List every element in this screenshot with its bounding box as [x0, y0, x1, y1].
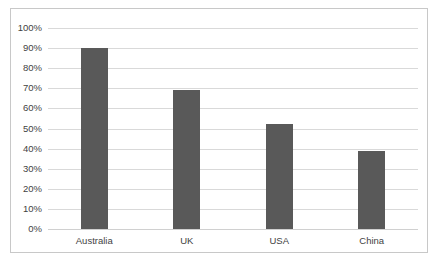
y-axis-tick-label: 20% — [23, 184, 42, 194]
x-axis-category-label: Australia — [76, 236, 113, 246]
y-axis-tick-label: 90% — [23, 43, 42, 53]
y-axis-tick-label: 30% — [23, 164, 42, 174]
y-axis-tick-label: 80% — [23, 63, 42, 73]
y-axis-tick-label: 10% — [23, 204, 42, 214]
gridline — [48, 28, 418, 29]
y-axis-tick-label: 100% — [18, 23, 42, 33]
x-axis-category-label: UK — [180, 236, 193, 246]
x-axis-category-label: China — [359, 236, 384, 246]
bar-china — [358, 151, 385, 229]
x-axis-category-label: USA — [269, 236, 289, 246]
y-axis-tick-label: 70% — [23, 84, 42, 94]
bar-uk — [173, 90, 200, 229]
y-axis-tick-label: 0% — [28, 224, 42, 234]
plot-area: 0%10%20%30%40%50%60%70%80%90%100% Austra… — [48, 28, 418, 229]
y-axis-tick-label: 40% — [23, 144, 42, 154]
bar-australia — [81, 48, 108, 229]
y-axis-tick-label: 60% — [23, 104, 42, 114]
y-axis-tick-label: 50% — [23, 124, 42, 134]
chart-container: 0%10%20%30%40%50%60%70%80%90%100% Austra… — [10, 8, 428, 253]
bar-usa — [266, 124, 293, 229]
gridline — [48, 229, 418, 230]
